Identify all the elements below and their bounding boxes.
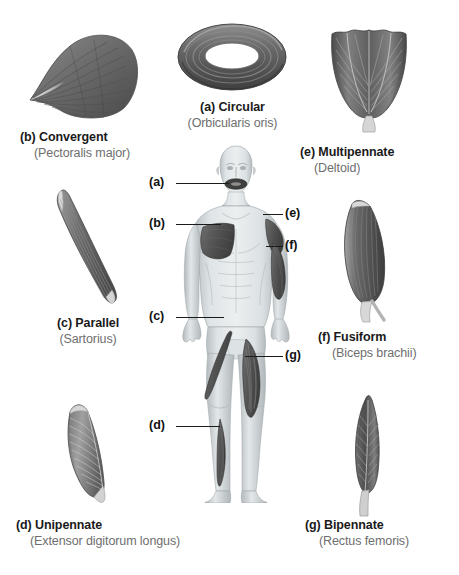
muscle-fascicle-arrangement-figure: (b) Convergent (Pectoralis major) (a) Ci… [0,0,459,575]
body-label-e: (e) [285,206,300,220]
unipennate-muscle-illustration [58,398,128,508]
body-label-a: (a) [149,175,164,189]
caption-circular: (a) Circular (Orbicularis oris) [160,100,305,131]
caption-circular-title: (a) Circular [160,100,305,116]
caption-multipennate: (e) Multipennate (Deltoid) [300,145,394,176]
human-body-diagram [168,143,304,503]
caption-parallel-title: (c) Parallel [18,316,158,332]
leader-line-a [176,183,229,184]
caption-fusiform: (f) Fusiform (Biceps brachii) [318,330,417,361]
convergent-muscle-illustration [24,22,144,122]
leader-line-f [266,246,283,247]
caption-parallel-subtitle: (Sartorius) [18,332,158,348]
body-label-c: (c) [149,309,164,323]
caption-bipennate: (g) Bipennate (Rectus femoris) [305,518,409,549]
leader-line-e [263,214,283,215]
caption-parallel: (c) Parallel (Sartorius) [18,316,158,347]
caption-multipennate-subtitle: (Deltoid) [300,161,394,177]
leader-line-d [176,426,220,427]
pectoralis-major-highlight [201,223,235,259]
caption-bipennate-subtitle: (Rectus femoris) [305,534,409,550]
bipennate-muscle-illustration [340,392,404,517]
caption-convergent-title: (b) Convergent [20,130,130,146]
caption-unipennate: (d) Unipennate (Extensor digitorum longu… [16,518,180,549]
caption-circular-subtitle: (Orbicularis oris) [160,116,305,132]
caption-fusiform-subtitle: (Biceps brachii) [318,346,417,362]
leader-line-b [176,224,221,225]
leader-line-c [176,317,224,318]
fusiform-muscle-illustration [330,198,408,326]
multipennate-muscle-illustration [322,22,416,134]
caption-convergent-subtitle: (Pectoralis major) [20,146,130,162]
caption-unipennate-subtitle: (Extensor digitorum longus) [16,534,180,550]
leader-line-g [245,356,283,357]
caption-unipennate-title: (d) Unipennate [16,518,180,534]
parallel-muscle-illustration [44,185,130,310]
body-label-d: (d) [149,418,165,432]
caption-multipennate-title: (e) Multipennate [300,145,394,161]
body-label-b: (b) [149,216,165,230]
body-label-g: (g) [285,348,301,362]
caption-bipennate-title: (g) Bipennate [305,518,409,534]
body-label-f: (f) [285,238,298,252]
caption-fusiform-title: (f) Fusiform [318,330,417,346]
caption-convergent: (b) Convergent (Pectoralis major) [20,130,130,161]
circular-muscle-illustration [174,18,290,96]
